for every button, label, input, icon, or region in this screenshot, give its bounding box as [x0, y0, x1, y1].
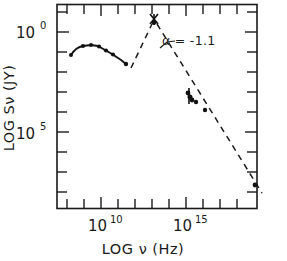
axes-border: [57, 5, 257, 209]
figure-container: 10 0 10 5 10 10 10 15 LOG ν (Hz) LOG Sν …: [0, 0, 287, 261]
y-axis-ticks-left: [57, 12, 69, 192]
data-point: [203, 108, 207, 112]
annotation-label: α = -1.1: [162, 33, 215, 48]
data-point: [190, 98, 195, 103]
y-tick-label-lower: 10 5: [16, 121, 46, 143]
y-tick-label-upper: 10 0: [16, 20, 46, 42]
plot-frame: [57, 5, 257, 209]
y-axis-title: LOG Sν (JY): [1, 65, 17, 152]
series-radio-branch: [69, 43, 128, 66]
data-point: [104, 48, 108, 52]
y-tick-upper-base: 10: [16, 24, 35, 42]
x-axis-ticks-top: [67, 5, 237, 17]
spectral-energy-distribution-chart: 10 0 10 5 10 10 10 15 LOG ν (Hz) LOG Sν …: [0, 0, 287, 261]
data-point: [89, 43, 93, 47]
data-point: [111, 52, 115, 56]
data-point: [69, 53, 73, 57]
data-point: [97, 44, 101, 48]
x-tick-label-1e10: 10 10: [88, 214, 123, 235]
x-tick-1-exponent: 10: [110, 214, 123, 225]
y-tick-lower-base: 10: [16, 125, 35, 143]
x-axis-ticks-bottom: [67, 197, 237, 209]
data-point: [194, 100, 198, 104]
y-axis-ticks-right: [245, 12, 257, 192]
x-tick-2-base: 10: [173, 217, 192, 235]
x-tick-2-exponent: 15: [195, 214, 208, 225]
annotation-spectral-index: α = -1.1: [160, 33, 215, 48]
connector-peak-to-optical: [157, 24, 262, 193]
connector-radio-to-peak: [131, 24, 152, 68]
x-tick-1-base: 10: [88, 217, 107, 235]
data-point: [81, 44, 85, 48]
data-point: [124, 62, 128, 66]
data-point: [253, 183, 258, 188]
x-axis-title: LOG ν (Hz): [102, 241, 184, 257]
x-tick-label-1e15: 10 15: [173, 214, 208, 235]
submm-peak-marker: [150, 14, 158, 25]
series-infrared-optical-branch: [186, 88, 258, 187]
y-tick-lower-exponent: 5: [40, 121, 46, 132]
y-tick-upper-exponent: 0: [40, 20, 46, 31]
